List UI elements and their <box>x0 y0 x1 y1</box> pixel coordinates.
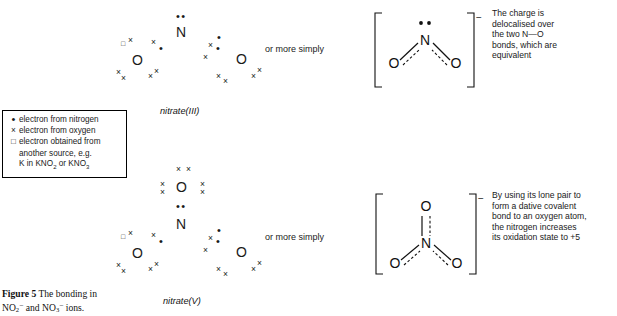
right-oxygen-v-cross-lower-b: × <box>223 270 230 278</box>
top-oxygen-cross-above-a: × <box>176 165 183 173</box>
annotation-nitrate-iii: The charge is delocalised over the two N… <box>492 8 607 61</box>
atom-oxygen-right-v: O <box>236 245 247 259</box>
left-oxygen-v-bond-dot: • <box>159 237 164 245</box>
nitrite-ion-svg: N O O <box>372 10 487 90</box>
svg-text:N: N <box>421 235 431 251</box>
legend-label-nitrogen: electron from nitrogen <box>19 115 122 125</box>
svg-text:O: O <box>451 55 462 71</box>
annotation-bottom-line-5: its oxidation state to +5 <box>492 232 614 243</box>
label-nitrate-iii: nitrate(III) <box>160 106 199 116</box>
figure-caption-text: The bonding in <box>38 288 97 299</box>
svg-text:O: O <box>390 255 401 271</box>
top-oxygen-cross-above-b: × <box>186 165 193 173</box>
lewis-structure-nitrate-v: × × × × O × × •• N □ × × • O × × × × • ×… <box>90 160 290 295</box>
left-oxygen-bond-dot: • <box>159 44 164 52</box>
svg-text:N: N <box>420 32 430 48</box>
svg-text:O: O <box>389 55 400 71</box>
atom-nitrogen-v: N <box>176 217 186 231</box>
svg-text:O: O <box>421 198 432 214</box>
atom-oxygen-left: O <box>132 53 143 67</box>
annotation-top-line-1: The charge is <box>492 8 607 19</box>
cross-icon: × <box>8 126 19 136</box>
legend-label-oxygen: electron from oxygen <box>19 126 122 136</box>
right-oxygen-v-bond-cross-upper: × <box>208 234 215 242</box>
annotation-bottom-line-4: the nitrogen increases <box>492 222 614 233</box>
svg-text:O: O <box>452 255 463 271</box>
right-oxygen-bond-dot-lower: • <box>216 44 221 52</box>
left-oxygen-v-bond-cross: × <box>151 231 158 239</box>
left-oxygen-cross-lower-d: × <box>154 67 161 75</box>
nitrate-ion-svg: O N O O <box>372 190 492 280</box>
connector-text-bottom: or more simply <box>265 232 324 242</box>
right-oxygen-v-bond-dot-lower: • <box>216 237 221 245</box>
charge-sign-bottom: − <box>478 194 484 204</box>
lewis-structure-nitrate-iii: •• N □ × × • O × × × × • × • × O × × × × <box>90 0 280 105</box>
bracket-formula-nitrate-v: O N O O − <box>372 190 492 280</box>
filled-dot-icon: • <box>8 115 19 124</box>
right-oxygen-bond-cross-upper: × <box>208 41 215 49</box>
legend-item-oxygen: × electron from oxygen <box>8 126 122 136</box>
dative-bond-lone-pair-dots: •• <box>176 202 187 210</box>
legend-item-other-source: □ electron obtained from <box>8 137 122 147</box>
annotation-top-line-3: the two N—O <box>492 29 607 40</box>
legend-knothree-mid: or KNO <box>56 159 86 168</box>
left-oxygen-v-cross-lower-b: × <box>121 267 128 275</box>
annotation-top-line-2: delocalised over <box>492 19 607 30</box>
annotation-bottom-line-3: bond to an oxygen atom, <box>492 211 614 222</box>
left-oxygen-v-square-electron: □ <box>121 233 125 241</box>
right-oxygen-bond-dot-upper: • <box>217 33 222 41</box>
right-oxygen-bond-cross-lower: × <box>203 53 210 61</box>
figure-caption-label: Figure 5 <box>2 288 36 299</box>
left-oxygen-bond-cross: × <box>151 38 158 46</box>
left-oxygen-v-cross-lower-d: × <box>154 260 161 268</box>
annotation-bottom-line-1: By using its lone pair to <box>492 190 614 201</box>
bracket-formula-nitrate-iii: N O O − <box>372 10 487 90</box>
atom-oxygen-right: O <box>236 52 247 66</box>
caption-formula-no2-pre: NO <box>2 302 16 313</box>
caption-formula-mid: and NO <box>23 302 56 313</box>
right-oxygen-cross-side-a: × <box>257 66 264 74</box>
right-oxygen-cross-lower-b: × <box>223 77 230 85</box>
right-oxygen-v-bond-cross-lower: × <box>203 246 210 254</box>
right-oxygen-v-cross-lower-a: × <box>216 265 223 273</box>
top-oxygen-cross-left-b: × <box>160 188 167 196</box>
right-oxygen-v-bond-dot-upper: • <box>217 226 222 234</box>
left-oxygen-cross-upper: × <box>128 36 135 44</box>
nitrogen-lone-pair-dots: •• <box>176 12 187 20</box>
right-oxygen-v-cross-side-a: × <box>257 259 264 267</box>
legend-knothree-sub: 3 <box>86 163 89 169</box>
atom-oxygen-dative: O <box>176 180 187 194</box>
legend-item-nitrogen: • electron from nitrogen <box>8 115 122 125</box>
legend-continuation-line1: another source, e.g. <box>19 149 122 159</box>
annotation-nitrate-v: By using its lone pair to form a dative … <box>492 190 614 243</box>
connector-text-top: or more simply <box>265 44 324 54</box>
charge-sign-top: − <box>476 13 482 23</box>
figure-caption: Figure 5 The bonding in NO2− and NO3− io… <box>2 288 136 315</box>
right-oxygen-cross-side-b: × <box>251 72 258 80</box>
figure-canvas: • electron from nitrogen × electron from… <box>0 0 617 316</box>
left-oxygen-square-electron: □ <box>121 40 125 48</box>
right-oxygen-v-cross-side-b: × <box>251 265 258 273</box>
atom-oxygen-left-v: O <box>132 246 143 260</box>
annotation-top-line-4: bonds, which are <box>492 40 607 51</box>
atom-nitrogen: N <box>176 25 186 39</box>
left-oxygen-cross-lower-b: × <box>121 74 128 82</box>
legend-knotwo-pre: K in KNO <box>19 159 53 168</box>
right-oxygen-cross-lower-a: × <box>216 72 223 80</box>
annotation-top-line-5: equivalent <box>492 50 607 61</box>
label-nitrate-v: nitrate(V) <box>163 296 201 306</box>
top-oxygen-cross-right-b: × <box>200 188 207 196</box>
left-oxygen-v-cross-upper: × <box>128 229 135 237</box>
caption-formula-end: ions. <box>63 302 84 313</box>
annotation-bottom-line-2: form a dative covalent <box>492 201 614 212</box>
legend-label-other-source: electron obtained from <box>19 137 122 147</box>
open-square-icon: □ <box>8 137 19 147</box>
